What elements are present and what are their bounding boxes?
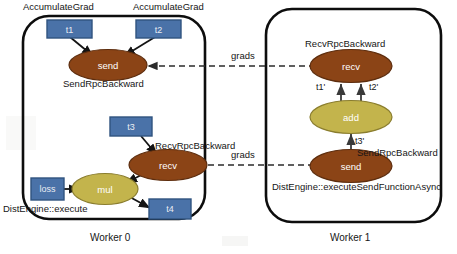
edge-label-t1-prime: t1' [316,83,325,92]
diagram-canvas: t1 t2 t3 loss t4 send recv mul [0,0,457,254]
tensor-t2-label: t2 [155,25,163,35]
dist-engine-execute-label: DistEngine::execute [3,204,88,214]
tensor-loss[interactable]: loss [31,178,64,200]
rpc-link-grads-top-label: grads [231,51,255,61]
edge-label-t2-prime: t2' [369,83,378,92]
node-send-w0-label: send [98,60,119,71]
node-recv-w1[interactable]: recv [310,50,392,83]
tensor-t3[interactable]: t3 [110,117,152,136]
node-add-label: add [343,112,359,123]
tensor-t1-label: t1 [66,25,74,35]
recv-rpc-backward-w0-label: RecvRpcBackward [155,141,235,151]
rpc-link-grads-bottom-label: grads [231,150,255,160]
accumulate-grad-t2-label: AccumulateGrad [133,2,204,12]
recv-rpc-backward-w1-label: RecvRpcBackward [305,39,385,49]
tensor-t4-label: t4 [166,204,174,214]
send-rpc-backward-w1-label: SendRpcBackward [357,148,438,158]
node-recv-w0-label: recv [159,160,177,171]
node-add[interactable]: add [310,101,392,134]
node-mul[interactable]: mul [72,174,138,205]
tensor-t2[interactable]: t2 [136,20,181,38]
tensor-t4[interactable]: t4 [149,199,191,219]
send-rpc-backward-w0-label: SendRpcBackward [63,79,144,89]
node-recv-w1-label: recv [342,61,360,72]
node-recv-w0[interactable]: recv [129,150,207,181]
diagram-svg: t1 t2 t3 loss t4 send recv mul [0,0,457,254]
node-mul-label: mul [97,184,112,195]
tensor-loss-label: loss [39,184,56,194]
edge-label-t3-prime: t3' [355,137,364,146]
accumulate-grad-t1-label: AccumulateGrad [23,2,94,12]
dist-engine-execute-send-async-label: DistEngine::executeSendFunctionAsync [272,182,441,192]
worker-0-caption: Worker 0 [90,232,130,243]
worker-1-caption: Worker 1 [330,232,370,243]
tensor-t1[interactable]: t1 [47,20,92,38]
node-send-w0[interactable]: send [69,50,147,81]
node-send-w1-label: send [341,161,362,172]
tensor-t3-label: t3 [127,122,135,132]
